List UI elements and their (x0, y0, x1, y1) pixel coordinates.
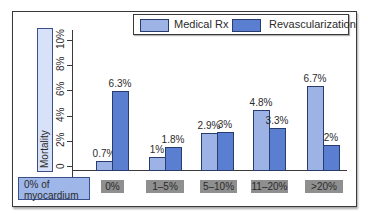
y-tick-label: 8% (55, 57, 66, 71)
bar-value-label: 1.8% (158, 134, 188, 145)
category-label: 1–5% (146, 180, 184, 193)
y-axis (72, 30, 73, 177)
x-axis-label-box: 0% of myocardium (18, 177, 90, 200)
x-axis-label-line1: 0% of (24, 179, 89, 190)
bar-medical (96, 161, 113, 171)
bar-revasc (217, 132, 234, 171)
bar-medical (307, 86, 324, 171)
bar-revasc (165, 147, 182, 171)
y-tick (67, 65, 72, 66)
bar-value-label: 6.7% (300, 73, 330, 84)
bar-revasc (112, 91, 129, 171)
y-tick-label: 4% (55, 107, 66, 121)
category-label: 11–20% (251, 180, 288, 193)
bar-medical (149, 157, 166, 171)
category-label: 5–10% (200, 180, 237, 193)
legend-swatch-revasc (232, 19, 261, 32)
x-axis-label-line2: myocardium (24, 190, 89, 201)
legend-label-medical: Medical Rx (174, 18, 228, 30)
bar-value-label: 3.3% (262, 115, 292, 126)
bar-medical (201, 133, 218, 171)
category-label: 0% (101, 180, 124, 193)
bar-value-label: 2% (316, 132, 346, 143)
y-tick-label: 0 (55, 163, 66, 169)
y-tick-label: 6% (55, 82, 66, 96)
bar-value-label: 3% (210, 119, 240, 130)
y-tick (67, 90, 72, 91)
legend-label-revasc: Revascularization (269, 18, 356, 30)
bar-value-label: 4.8% (246, 97, 276, 108)
y-tick-label: 2% (55, 132, 66, 146)
y-tick-label: 10% (55, 29, 66, 49)
bar-revasc (323, 145, 340, 171)
category-label: >20% (305, 180, 343, 193)
y-tick (67, 166, 72, 167)
y-axis-label: Mortality (39, 130, 50, 168)
y-tick (67, 40, 72, 41)
y-tick (67, 141, 72, 142)
legend-swatch-medical (140, 19, 169, 32)
bar-value-label: 6.3% (105, 78, 135, 89)
y-tick (67, 116, 72, 117)
bar-revasc (269, 128, 286, 171)
legend: Medical Rx Revascularization (133, 14, 349, 35)
